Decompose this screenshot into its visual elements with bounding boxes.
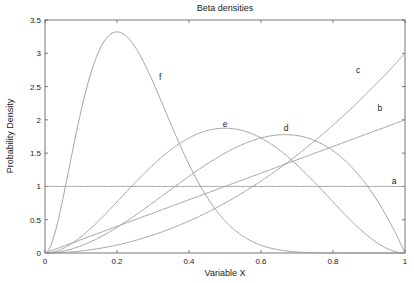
curve-e [45,128,405,253]
x-tick-label: 0.2 [111,257,123,266]
y-axis-label: Probability Density [5,98,15,173]
curve-labels: abcdef [159,65,397,186]
curve-label-c: c [356,65,361,75]
density-curves [45,32,405,253]
axis-ticks: 00.20.40.60.8100.511.522.533.5 [30,16,408,266]
curve-label-a: a [392,176,397,186]
x-axis-label: Variable X [205,268,246,278]
curve-label-b: b [377,103,382,113]
curve-label-e: e [223,119,228,129]
x-tick-label: 0.8 [327,257,339,266]
chart-title: Beta densities [197,3,254,13]
y-tick-label: 3.5 [30,16,42,25]
y-tick-label: 1.5 [30,149,42,158]
x-tick-label: 1 [403,257,408,266]
y-tick-label: 0 [37,249,42,258]
y-tick-label: 2.5 [30,83,42,92]
x-tick-label: 0 [43,257,48,266]
y-tick-label: 0.5 [30,216,42,225]
plot-frame [45,20,405,253]
x-tick-label: 0.6 [255,257,267,266]
y-tick-label: 2 [37,116,42,125]
curve-d [45,135,405,253]
curve-label-f: f [159,72,162,82]
y-tick-label: 1 [37,182,42,191]
y-tick-label: 3 [37,49,42,58]
beta-densities-chart: Beta densities Probability Density Varia… [0,0,414,283]
curve-label-d: d [284,123,289,133]
x-tick-label: 0.4 [183,257,195,266]
curve-f [45,32,405,253]
